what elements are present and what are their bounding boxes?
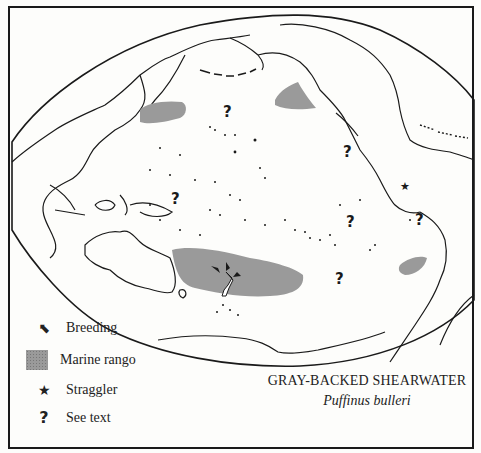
map-title: GRAY-BACKED SHEARWATER — [258, 373, 476, 389]
straggler-star-icon: ★ — [400, 180, 410, 193]
southwest-pacific-range — [172, 248, 303, 296]
breeding-arrow-icon: ⬉ — [30, 320, 58, 336]
aleutian-islands — [200, 69, 256, 76]
indonesia-islands — [50, 185, 172, 217]
gulf-of-alaska-range — [275, 82, 316, 109]
legend-item-marine-range: Marine rango — [26, 350, 136, 370]
legend-item-straggler: ★ Straggler — [30, 382, 117, 398]
question-mark-icon: ? — [335, 270, 344, 288]
star-icon: ★ — [30, 382, 58, 398]
legend-item-see-text: ? See text — [30, 408, 111, 427]
question-mark-icon: ? — [171, 190, 180, 208]
northwest-pacific-range — [140, 101, 186, 123]
caribbean-islands — [420, 125, 468, 138]
antarctica-coastline — [158, 332, 385, 353]
australia-coastline — [85, 231, 175, 293]
question-mark-icon: ? — [415, 211, 424, 229]
marine-range-swatch — [26, 350, 48, 370]
north-america-coastline — [230, 24, 474, 362]
question-mark-icon: ? — [223, 103, 232, 121]
asia-coastline — [12, 35, 250, 258]
question-mark-icon: ? — [346, 213, 355, 231]
legend-item-breeding: ⬉ Breeding — [30, 320, 117, 336]
off-chile-range — [399, 257, 427, 275]
question-mark-icon: ? — [30, 408, 58, 427]
species-scientific-name: Puffinus bulleri — [258, 393, 476, 409]
question-mark-icon: ? — [343, 143, 352, 161]
